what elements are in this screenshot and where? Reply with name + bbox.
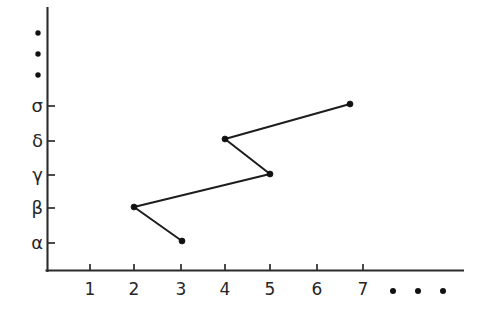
chart-figure: 1 2 3 4 5 6 7 α β γ δ σ [0, 0, 489, 322]
x-tick-label-1: 1 [85, 281, 96, 298]
y-tick-label-sigma: σ [32, 97, 43, 115]
x-tick-label-7: 7 [358, 281, 369, 298]
series-markers-1 [131, 101, 353, 244]
x-tick-label-2: 2 [129, 281, 140, 298]
x-tick-label-3: 3 [176, 281, 187, 298]
chart-plot-area [0, 0, 489, 322]
series-line-1 [134, 104, 350, 241]
y-tick-label-alpha: α [31, 234, 43, 252]
data-point-sigma [347, 101, 353, 107]
y-tick-label-gamma: γ [32, 166, 43, 184]
data-point-alpha [179, 238, 185, 244]
x-axis-continuation-ellipsis-icon [390, 288, 446, 294]
x-tick-label-5: 5 [265, 281, 276, 298]
y-tick-label-beta: β [32, 199, 44, 217]
data-point-beta [131, 204, 137, 210]
data-point-delta [222, 136, 228, 142]
y-tick-label-delta: δ [32, 132, 43, 150]
data-point-gamma [267, 171, 273, 177]
x-tick-label-6: 6 [312, 281, 323, 298]
y-axis-continuation-ellipsis-icon [35, 30, 40, 77]
x-tick-label-4: 4 [220, 281, 231, 298]
